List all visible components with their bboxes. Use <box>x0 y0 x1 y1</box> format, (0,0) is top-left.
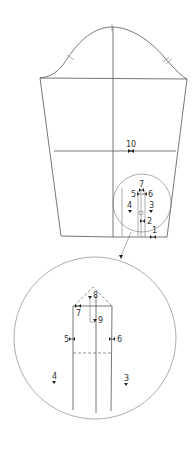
detail-label-9: 9 <box>98 316 103 325</box>
label-10: 10 <box>126 140 136 149</box>
detail-label-4: 4 <box>52 372 57 381</box>
detail-marker-4-icon <box>52 381 56 384</box>
detail-label-3: 3 <box>124 374 129 383</box>
detail-label-8: 8 <box>93 291 98 300</box>
detail-marker-5-icon <box>69 337 75 341</box>
label-6: 6 <box>148 190 153 199</box>
marker-1-icon <box>150 235 156 239</box>
label-1: 1 <box>152 226 157 235</box>
detail-marker-3-icon <box>124 383 128 386</box>
marker-10-icon <box>128 149 134 153</box>
marker-4-icon <box>128 210 132 213</box>
label-3: 3 <box>149 201 154 210</box>
label-5: 5 <box>131 190 136 199</box>
detail-label-5: 5 <box>64 335 69 344</box>
label-4: 4 <box>127 201 132 210</box>
placket-right <box>111 306 112 411</box>
bicep-line <box>40 78 187 79</box>
marker-6-icon <box>142 192 147 196</box>
marker-5-icon <box>137 192 141 196</box>
label-7: 7 <box>139 180 144 189</box>
detail-enlarged-circle <box>14 257 176 419</box>
detail-marker-8-icon <box>88 296 92 299</box>
sleeve-cap-curve <box>40 27 187 79</box>
sleeve-side-right <box>167 79 187 237</box>
detail-label-7: 7 <box>76 309 81 318</box>
callout-arrowhead-icon <box>119 255 123 259</box>
label-2: 2 <box>147 217 152 226</box>
detail-marker-7-icon <box>75 304 81 308</box>
marker-3-icon <box>149 210 153 213</box>
sleeve-side-left <box>40 78 61 236</box>
detail-label-6: 6 <box>117 335 122 344</box>
sleeve-pattern-diagram: 10 7 5 6 4 3 2 1 8 7 9 5 6 4 3 <box>0 0 196 449</box>
callout-arrow-line <box>121 232 131 256</box>
